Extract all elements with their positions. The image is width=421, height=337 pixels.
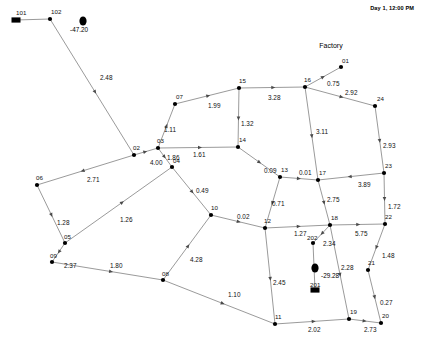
edge-arrow-icon [143,149,148,154]
edge-arrow-icon [268,277,272,281]
node-id-label: 20 [382,312,389,319]
edge-weight-label: 0.71 [272,200,285,207]
graph-edge[interactable] [158,146,238,150]
graph-edge[interactable] [37,185,65,243]
graph-edge[interactable] [65,167,172,243]
graph-node-21[interactable]: 21 [366,259,376,272]
edge-weight-label: 2.75 [327,196,340,203]
edge-arrow-icon [120,200,125,205]
node-id-label: 17 [319,169,326,176]
node-id-label: 14 [239,136,246,143]
node-dot-icon [373,104,377,108]
edge-arrow-icon [236,219,241,223]
graph-node-06[interactable]: 06 [35,174,44,187]
edge-arrow-icon [237,116,241,120]
edge-arrow-icon [320,74,325,79]
edge-weight-label: 2.28 [341,264,354,271]
graph-edge[interactable] [280,177,318,181]
graph-edge[interactable] [50,19,134,155]
graph-node-07[interactable]: 07 [173,93,184,106]
graph-edge[interactable] [163,215,211,280]
edge-line [163,280,275,324]
edge-weight-label: 1.80 [110,262,123,269]
edge-weight-label: 0.09 [264,167,277,174]
edge-weight-label: 1.27 [294,230,307,237]
node-id-label: 101 [16,9,27,16]
node-id-label: 202 [307,234,318,241]
edge-arrow-icon [297,225,301,229]
edge-line [163,215,211,280]
graph-node-10[interactable]: 10 [209,204,219,217]
edge-arrow-icon [206,93,211,97]
vehicle-load-label: -29.28 [321,272,340,279]
node-id-label: 16 [304,76,311,83]
graph-node-24[interactable]: 24 [373,95,385,108]
vehicle-marker[interactable]: -29.28 [311,263,339,279]
node-dot-icon [209,213,213,217]
edge-arrow-icon [348,175,352,179]
node-dot-icon [48,17,52,21]
vehicle-marker[interactable]: -47.20 [70,16,89,33]
graph-node-05[interactable]: 05 [63,233,72,245]
node-id-label: 02 [133,144,140,151]
edge-weight-label: 2.93 [383,142,396,149]
node-dot-icon [236,145,240,149]
node-id-label: 21 [368,259,375,266]
edge-weight-label: 1.99 [208,102,221,109]
graph-edge[interactable] [368,270,381,323]
edge-weight-label: 1.61 [193,151,206,158]
node-id-label: 18 [331,214,338,221]
edge-arrow-icon [339,95,344,100]
node-dot-icon [379,321,383,325]
graph-edge[interactable] [175,88,239,104]
graph-edge[interactable] [305,87,375,106]
edge-arrow-icon [220,301,225,306]
graph-node-08[interactable]: 08 [161,270,170,282]
edge-weight-label: 1.72 [388,203,401,210]
graph-node-22[interactable]: 22 [383,213,393,226]
edge-arrow-icon [322,200,327,205]
node-id-label: 08 [162,270,169,277]
node-dot-icon [366,268,370,272]
graph-edge[interactable] [330,223,385,227]
edge-weight-label: 1.11 [164,126,176,133]
graph-node-01[interactable]: 01 [339,57,350,69]
edge-arrow-icon [186,243,191,248]
node-id-label: 102 [51,8,62,15]
graph-edge[interactable] [16,19,50,20]
node-dot-icon [382,171,386,175]
factory-title-label: Factory [319,42,343,50]
node-dot-icon [263,226,267,230]
node-dot-icon [132,153,136,157]
graph-node-102[interactable]: 102 [48,8,62,21]
node-dot-icon [237,86,241,90]
edge-weight-label: 4.00 [150,159,163,166]
graph-node-16[interactable]: 16 [303,76,312,89]
graph-node-09[interactable]: 09 [50,252,58,264]
graph-node-101[interactable]: 101 [12,9,27,23]
graph-edge[interactable] [37,155,134,185]
node-dot-icon [50,260,54,264]
node-id-label: 19 [350,308,357,315]
graph-edge[interactable] [239,86,305,90]
graph-node-14[interactable]: 14 [236,136,247,149]
node-id-label: 12 [264,217,271,224]
edge-arrow-icon [80,169,85,174]
graph-edge[interactable] [275,319,349,324]
edge-arrow-icon [271,86,275,90]
graph-edge[interactable] [163,280,275,324]
graph-node-202[interactable]: 202 [307,234,318,245]
graph-edge[interactable] [318,173,384,180]
graph-node-20[interactable]: 20 [379,312,390,325]
graph-node-201[interactable]: 201 [310,281,321,293]
graph-edge[interactable] [349,319,381,323]
network-graph: 1011020102030405060708091011121314151617… [0,0,421,337]
edge-weight-label: 0.75 [327,80,340,87]
graph-edge[interactable] [265,228,275,324]
graph-node-02[interactable]: 02 [132,144,141,157]
graph-edge[interactable] [265,225,330,229]
truck-icon [79,16,86,25]
graph-edge[interactable] [375,106,384,173]
node-dot-icon [328,223,332,227]
edge-arrow-icon [198,146,202,150]
